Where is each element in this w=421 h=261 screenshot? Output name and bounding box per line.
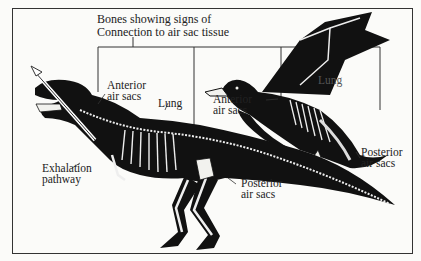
dino-anterior-air-sacs-label: Anterior air sacs	[107, 80, 146, 102]
title-line-1: Bones showing signs of	[97, 13, 229, 26]
diagram-artwork	[0, 0, 421, 261]
dino-lung-label: Lung	[158, 98, 182, 109]
bird-lung-label: Lung	[318, 75, 342, 86]
dino-posterior-air-sacs-label: Posterior air sacs	[241, 178, 283, 200]
exhalation-pathway-label: Exhalation pathway	[42, 163, 92, 185]
bird-posterior-air-sacs-label: Posterior air sacs	[361, 147, 403, 169]
title-line-2: Connection to air sac tissue	[97, 26, 229, 39]
diagram-title: Bones showing signs of Connection to air…	[97, 13, 229, 38]
bird-anterior-air-sacs-label: Anterior air sacs	[213, 94, 252, 116]
